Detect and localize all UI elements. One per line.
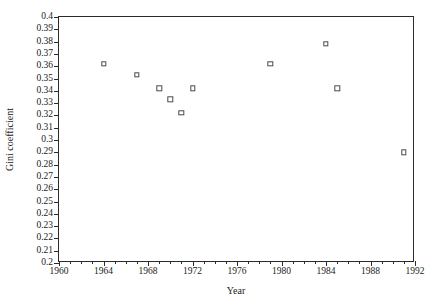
y-axis-tick-label: 0.21 bbox=[36, 246, 53, 256]
x-axis-minor-tick-mark bbox=[248, 261, 249, 264]
x-axis-minor-tick-mark bbox=[115, 261, 116, 264]
x-axis-minor-tick-mark bbox=[404, 261, 405, 264]
x-axis-tick-label: 1980 bbox=[272, 267, 291, 277]
y-axis-tick-mark bbox=[54, 140, 59, 141]
x-axis-minor-tick-mark bbox=[126, 261, 127, 264]
y-axis-tick-mark bbox=[54, 128, 59, 129]
data-point-marker bbox=[401, 150, 406, 155]
data-point-marker bbox=[323, 41, 328, 46]
y-axis-tick-mark bbox=[54, 91, 59, 92]
x-axis-minor-tick-mark bbox=[181, 261, 182, 264]
data-point-marker bbox=[334, 86, 339, 91]
y-axis-tick-label: 0.37 bbox=[36, 49, 53, 59]
y-axis-tick-mark bbox=[54, 214, 59, 215]
x-axis-label: Year bbox=[58, 286, 414, 296]
y-axis-tick-label: 0.35 bbox=[36, 74, 53, 84]
y-axis-tick-label: 0.28 bbox=[36, 160, 53, 170]
x-axis-minor-tick-mark bbox=[293, 261, 294, 264]
y-axis-tick-mark bbox=[54, 29, 59, 30]
y-axis-tick-mark bbox=[54, 115, 59, 116]
y-axis-tick-label: 0.24 bbox=[36, 209, 53, 219]
data-point-marker bbox=[179, 110, 184, 115]
y-axis-tick-mark bbox=[54, 66, 59, 67]
y-axis-tick-label: 0.23 bbox=[36, 221, 53, 231]
data-point-marker bbox=[134, 72, 139, 77]
x-axis-minor-tick-mark bbox=[81, 261, 82, 264]
y-axis-tick-mark bbox=[54, 177, 59, 178]
y-axis-tick-label: 0.25 bbox=[36, 197, 53, 207]
x-axis-minor-tick-mark bbox=[159, 261, 160, 264]
y-axis-tick-mark bbox=[54, 189, 59, 190]
y-axis-tick-mark bbox=[54, 152, 59, 153]
y-axis-tick-mark bbox=[54, 79, 59, 80]
x-axis-minor-tick-mark bbox=[393, 261, 394, 264]
x-axis-minor-tick-mark bbox=[348, 261, 349, 264]
y-axis-label-text: Gini coefficient bbox=[4, 108, 15, 171]
y-axis-tick-mark bbox=[54, 226, 59, 227]
y-axis-tick-label: 0.39 bbox=[36, 25, 53, 35]
y-axis-tick-label: 0.33 bbox=[36, 98, 53, 108]
y-axis-tick-label: 0.34 bbox=[36, 86, 53, 96]
x-axis-minor-tick-mark bbox=[315, 261, 316, 264]
x-axis-minor-tick-mark bbox=[304, 261, 305, 264]
y-axis-tick-mark bbox=[54, 202, 59, 203]
data-point-marker bbox=[101, 61, 106, 66]
y-axis-tick-mark bbox=[54, 238, 59, 239]
y-axis-tick-mark bbox=[54, 17, 59, 18]
y-axis-tick-mark bbox=[54, 103, 59, 104]
x-axis-minor-tick-mark bbox=[270, 261, 271, 264]
x-axis-minor-tick-mark bbox=[70, 261, 71, 264]
data-point-marker bbox=[168, 97, 173, 102]
x-axis-tick-label: 1976 bbox=[228, 267, 247, 277]
y-axis-tick-label: 0.4 bbox=[41, 12, 53, 22]
x-axis-tick-label: 1964 bbox=[94, 267, 113, 277]
x-axis-minor-tick-mark bbox=[215, 261, 216, 264]
data-point-marker bbox=[268, 61, 273, 66]
y-axis-tick-label: 0.32 bbox=[36, 111, 53, 121]
x-axis-minor-tick-mark bbox=[137, 261, 138, 264]
data-point-marker bbox=[156, 86, 161, 91]
x-axis-minor-tick-mark bbox=[359, 261, 360, 264]
data-point-marker bbox=[190, 86, 195, 91]
y-axis-tick-label: 0.31 bbox=[36, 123, 53, 133]
x-axis-tick-label: 1972 bbox=[183, 267, 202, 277]
plot-area: 0.20.210.220.230.240.250.260.270.280.290… bbox=[58, 16, 414, 262]
y-axis-tick-label: 0.22 bbox=[36, 234, 53, 244]
y-axis-tick-label: 0.26 bbox=[36, 184, 53, 194]
x-axis-minor-tick-mark bbox=[259, 261, 260, 264]
y-axis-tick-mark bbox=[54, 54, 59, 55]
y-axis-tick-label: 0.36 bbox=[36, 61, 53, 71]
x-axis-tick-label: 1960 bbox=[50, 267, 69, 277]
y-axis-tick-label: 0.29 bbox=[36, 148, 53, 158]
gini-coefficient-scatter-chart: Gini coefficient 0.20.210.220.230.240.25… bbox=[0, 0, 434, 308]
x-axis-minor-tick-mark bbox=[337, 261, 338, 264]
y-axis-label: Gini coefficient bbox=[2, 16, 16, 262]
y-axis-tick-mark bbox=[54, 251, 59, 252]
y-axis-tick-label: 0.27 bbox=[36, 172, 53, 182]
x-axis-tick-label: 1988 bbox=[361, 267, 380, 277]
y-axis-tick-label: 0.38 bbox=[36, 37, 53, 47]
y-axis-tick-mark bbox=[54, 165, 59, 166]
x-axis-minor-tick-mark bbox=[226, 261, 227, 264]
x-axis-tick-label: 1968 bbox=[139, 267, 158, 277]
y-axis-tick-label: 0.3 bbox=[41, 135, 53, 145]
x-axis-tick-label: 1984 bbox=[317, 267, 336, 277]
x-axis-minor-tick-mark bbox=[92, 261, 93, 264]
y-axis-tick-mark bbox=[54, 42, 59, 43]
x-axis-minor-tick-mark bbox=[170, 261, 171, 264]
x-axis-minor-tick-mark bbox=[382, 261, 383, 264]
x-axis-minor-tick-mark bbox=[204, 261, 205, 264]
x-axis-tick-label: 1992 bbox=[406, 267, 425, 277]
